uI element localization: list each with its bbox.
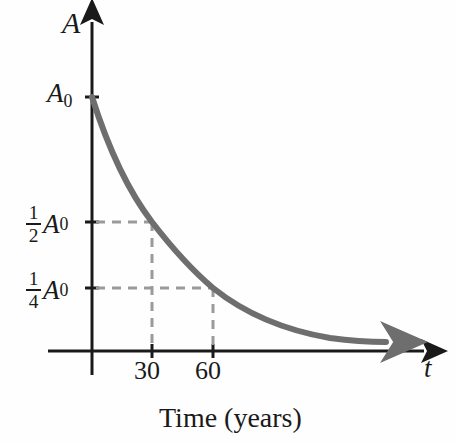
fraction-one-quarter: 1 4 xyxy=(26,269,41,312)
x-axis-caption: Time (years) xyxy=(159,404,302,432)
y-tick-label-quarter-A0: 1 4 A0 xyxy=(26,269,68,312)
fraction-one-half: 1 2 xyxy=(26,203,41,246)
y-tick-label-A0-base: A xyxy=(47,78,64,108)
y-tick-label-half-base: A xyxy=(43,211,60,238)
y-tick-label-quarter-sub: 0 xyxy=(60,282,69,300)
decay-curve-figure: A t A0 1 2 A0 1 4 A0 30 60 Time (years) xyxy=(0,0,455,443)
x-axis-label: t xyxy=(424,355,432,382)
fraction-numerator: 1 xyxy=(27,203,41,223)
y-tick-label-A0: A0 xyxy=(47,80,72,111)
y-tick-label-quarter-base: A xyxy=(43,277,60,304)
x-tick-label-60: 60 xyxy=(195,358,221,384)
y-tick-label-half-sub: 0 xyxy=(60,216,69,234)
fraction-denominator: 2 xyxy=(27,225,41,245)
y-tick-label-A0-sub: 0 xyxy=(64,91,73,111)
fraction-numerator: 1 xyxy=(27,269,41,289)
y-tick-label-half-A0: 1 2 A0 xyxy=(26,203,68,246)
decay-curve xyxy=(92,97,386,342)
fraction-denominator: 4 xyxy=(27,291,41,311)
y-axis-label: A xyxy=(62,8,80,38)
x-tick-label-30: 30 xyxy=(134,358,160,384)
